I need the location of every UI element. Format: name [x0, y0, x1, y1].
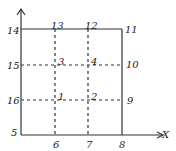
point-label-4: 4 — [91, 57, 97, 67]
point-label-3: 3 — [58, 57, 64, 67]
point-label-2: 2 — [91, 92, 97, 102]
point-label-6: 6 — [53, 140, 59, 150]
point-label-12: 12 — [85, 21, 98, 31]
point-label-8: 8 — [119, 140, 125, 150]
point-label-13: 13 — [51, 21, 64, 31]
point-label-15: 15 — [7, 61, 20, 71]
x-axis-label: X — [162, 130, 169, 140]
point-label-10: 10 — [126, 60, 139, 70]
point-label-1: 1 — [58, 92, 64, 102]
point-label-7: 7 — [86, 140, 92, 150]
point-label-9: 9 — [127, 96, 133, 106]
point-label-14: 14 — [7, 26, 20, 36]
point-label-5: 5 — [11, 128, 17, 138]
point-label-11: 11 — [125, 25, 138, 35]
point-label-16: 16 — [7, 96, 20, 106]
